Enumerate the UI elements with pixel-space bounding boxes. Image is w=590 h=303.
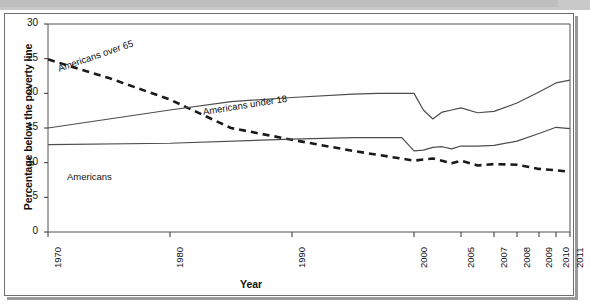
y-tick-label: 10 <box>16 156 38 167</box>
page-top-band-inner <box>0 0 558 7</box>
x-tick-label: 2007 <box>498 247 509 268</box>
x-tick-label: 2000 <box>418 247 429 268</box>
y-tick-label: 0 <box>16 225 38 236</box>
page-top-band <box>0 0 590 10</box>
x-tick-label: 2008 <box>521 247 532 268</box>
x-tick-label: 2010 <box>560 247 571 268</box>
x-axis-title: Year <box>240 278 262 290</box>
y-tick-label: 30 <box>16 17 38 28</box>
line-chart-figure: Percentage below the poverty line Year 0… <box>4 13 574 296</box>
document-shadow-bottom <box>7 297 578 300</box>
x-tick-label: 1990 <box>296 247 307 268</box>
screenshot-page: Percentage below the poverty line Year 0… <box>0 0 590 303</box>
y-tick-label: 15 <box>16 121 38 132</box>
y-tick-label: 5 <box>16 190 38 201</box>
x-tick-label: 1970 <box>52 247 63 268</box>
y-tick-label: 25 <box>16 52 38 63</box>
series-line-0 <box>48 59 570 171</box>
x-tick-label: 2011 <box>574 248 585 268</box>
series-line-2 <box>48 127 570 151</box>
y-tick-label: 20 <box>16 86 38 97</box>
series-line-1 <box>48 80 570 128</box>
x-tick-label: 2005 <box>465 247 476 268</box>
series-label-2: Americans <box>67 171 112 182</box>
x-tick-label: 2009 <box>543 247 554 268</box>
x-tick-label: 1980 <box>174 247 185 268</box>
